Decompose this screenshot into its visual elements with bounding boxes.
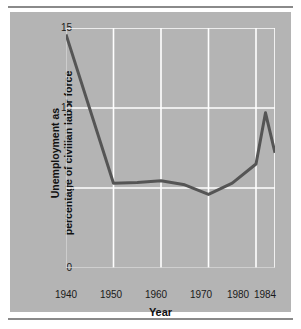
bottom-rule — [8, 318, 293, 320]
gridlines — [66, 28, 275, 268]
x-tick-1960: 1960 — [136, 290, 176, 300]
data-line-series-0 — [66, 34, 275, 194]
x-axis-ticks: 1940 1950 1960 1970 1980 1984 — [10, 290, 301, 304]
chart-figure: Unemployment as percentage of civilian l… — [0, 0, 301, 329]
x-tick-1950: 1950 — [91, 290, 131, 300]
axis-lines — [66, 28, 275, 268]
plot-area — [66, 28, 275, 268]
x-tick-1984: 1984 — [245, 290, 285, 300]
top-rule — [8, 6, 293, 8]
x-tick-1940: 1940 — [46, 290, 86, 300]
line-chart-svg — [66, 28, 275, 268]
x-tick-1970: 1970 — [181, 290, 221, 300]
x-axis-title: Year — [10, 306, 301, 318]
